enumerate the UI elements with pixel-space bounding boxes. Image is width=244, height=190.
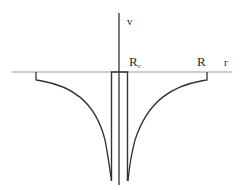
left-potential-curve <box>36 72 112 181</box>
outer-radius-label: R <box>197 54 206 69</box>
right-potential-curve <box>128 72 207 181</box>
potential-diagram: v Rc R r <box>0 0 244 190</box>
r-axis-label: r <box>224 56 228 68</box>
inner-radius-label: Rc <box>129 54 141 70</box>
v-axis-label: v <box>127 15 133 27</box>
